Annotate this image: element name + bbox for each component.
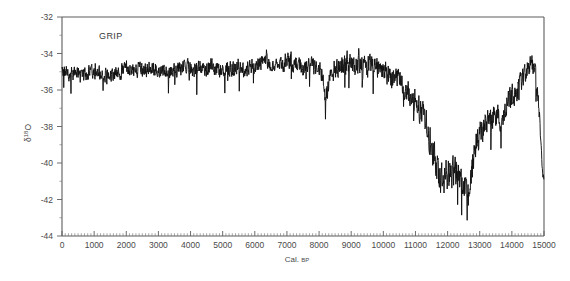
series-annotation: GRIP bbox=[99, 31, 123, 41]
x-tick-label: 7000 bbox=[277, 240, 296, 250]
x-tick-label: 0 bbox=[60, 240, 65, 250]
y-axis-title-oxygen: O bbox=[23, 124, 33, 131]
x-tick-label: 9000 bbox=[342, 240, 361, 250]
y-tick-label: -34 bbox=[41, 49, 54, 59]
x-tick-label: 11000 bbox=[404, 240, 427, 250]
data-series-group bbox=[62, 48, 544, 220]
y-axis: -32-34-36-38-40-42-44 bbox=[41, 12, 62, 241]
svg-text:Cal. BP: Cal. BP bbox=[285, 255, 309, 264]
x-axis-title: Cal. BP bbox=[285, 255, 309, 264]
x-tick-label: 5000 bbox=[213, 240, 232, 250]
x-tick-label: 12000 bbox=[436, 240, 460, 250]
y-tick-label: -32 bbox=[41, 12, 54, 22]
series-label-grip: GRIP bbox=[99, 31, 123, 41]
y-tick-label: -38 bbox=[41, 122, 54, 132]
x-tick-label: 10000 bbox=[372, 240, 396, 250]
x-tick-label: 13000 bbox=[468, 240, 492, 250]
x-axis-title-smallcaps: BP bbox=[301, 257, 309, 263]
y-tick-label: -44 bbox=[41, 231, 54, 241]
x-tick-label: 1000 bbox=[85, 240, 104, 250]
svg-text:δ18O: δ18O bbox=[23, 124, 33, 142]
x-axis: 0100020003000400050006000700080009000100… bbox=[60, 231, 556, 250]
x-tick-label: 6000 bbox=[245, 240, 264, 250]
y-axis-title: δ18O bbox=[23, 124, 33, 142]
grip-isotope-chart: -32-34-36-38-40-42-44 010002000300040005… bbox=[0, 0, 570, 281]
y-tick-label: -42 bbox=[41, 195, 54, 205]
y-tick-label: -36 bbox=[41, 85, 54, 95]
x-tick-label: 4000 bbox=[181, 240, 200, 250]
x-tick-label: 14000 bbox=[500, 240, 524, 250]
x-tick-label: 15000 bbox=[532, 240, 556, 250]
series-line-grip bbox=[62, 48, 544, 220]
figure-panel: -32-34-36-38-40-42-44 010002000300040005… bbox=[0, 0, 570, 281]
y-tick-label: -40 bbox=[41, 158, 54, 168]
x-tick-label: 8000 bbox=[310, 240, 329, 250]
x-axis-title-main: Cal. bbox=[285, 255, 299, 264]
plot-frame bbox=[62, 17, 544, 236]
x-tick-label: 3000 bbox=[149, 240, 168, 250]
x-tick-label: 2000 bbox=[117, 240, 136, 250]
